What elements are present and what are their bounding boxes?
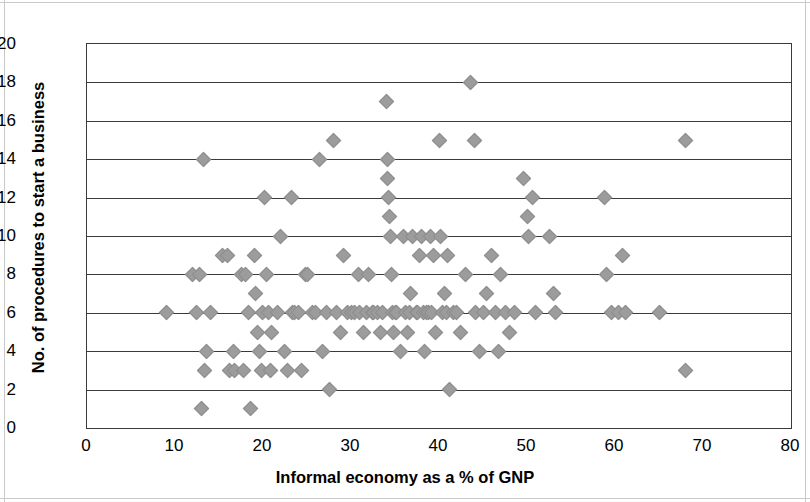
data-point bbox=[521, 228, 537, 244]
x-tick-label: 50 bbox=[496, 437, 556, 454]
data-point bbox=[336, 247, 352, 263]
y-tick-label: 14 bbox=[0, 150, 16, 167]
data-point bbox=[380, 171, 396, 187]
data-point bbox=[547, 305, 563, 321]
data-point bbox=[294, 363, 310, 379]
y-tick-label: 16 bbox=[0, 112, 16, 129]
data-point bbox=[484, 247, 500, 263]
data-point bbox=[202, 305, 218, 321]
data-point bbox=[379, 151, 395, 167]
x-tick-label: 40 bbox=[408, 437, 468, 454]
data-point bbox=[243, 401, 259, 417]
data-point bbox=[472, 343, 488, 359]
data-point bbox=[273, 228, 289, 244]
data-point bbox=[196, 363, 212, 379]
y-tick-label: 12 bbox=[0, 189, 16, 206]
x-tick-label: 20 bbox=[232, 437, 292, 454]
data-point bbox=[259, 267, 275, 283]
data-point bbox=[502, 324, 518, 340]
data-point bbox=[158, 305, 174, 321]
y-tick-label: 4 bbox=[0, 342, 16, 359]
data-point bbox=[528, 305, 544, 321]
data-point bbox=[322, 382, 338, 398]
data-point bbox=[276, 343, 292, 359]
data-point bbox=[264, 324, 280, 340]
y-tick-label: 10 bbox=[0, 227, 16, 244]
gridline bbox=[87, 82, 791, 83]
x-tick-label: 70 bbox=[672, 437, 732, 454]
data-point bbox=[403, 286, 419, 302]
data-point bbox=[188, 305, 204, 321]
figure-border-right bbox=[805, 0, 806, 502]
x-tick-label: 0 bbox=[56, 437, 116, 454]
data-point bbox=[597, 190, 613, 206]
data-point bbox=[400, 324, 416, 340]
data-point bbox=[252, 343, 268, 359]
figure-border-bottom bbox=[0, 498, 810, 499]
data-point bbox=[428, 324, 444, 340]
data-point bbox=[361, 267, 377, 283]
data-point bbox=[519, 209, 535, 225]
data-point bbox=[678, 363, 694, 379]
data-point bbox=[236, 363, 252, 379]
data-point bbox=[479, 286, 495, 302]
data-point bbox=[491, 343, 507, 359]
data-point bbox=[382, 209, 398, 225]
x-axis-title: Informal economy as a % of GNP bbox=[0, 468, 810, 487]
data-point bbox=[195, 151, 211, 167]
figure-border-top bbox=[0, 2, 810, 3]
x-tick-label: 80 bbox=[760, 437, 810, 454]
data-point bbox=[248, 286, 264, 302]
data-point bbox=[516, 171, 532, 187]
data-point bbox=[493, 267, 509, 283]
data-point bbox=[507, 305, 523, 321]
data-point bbox=[315, 343, 331, 359]
y-tick-label: 0 bbox=[0, 419, 16, 436]
data-point bbox=[283, 190, 299, 206]
data-point bbox=[326, 132, 342, 148]
data-point bbox=[433, 228, 449, 244]
gridline bbox=[87, 390, 791, 391]
data-point bbox=[614, 247, 630, 263]
data-point bbox=[524, 190, 540, 206]
data-point bbox=[333, 324, 349, 340]
data-point bbox=[246, 247, 262, 263]
x-tick-label: 10 bbox=[144, 437, 204, 454]
data-point bbox=[199, 343, 215, 359]
gridline bbox=[87, 198, 791, 199]
data-point bbox=[466, 132, 482, 148]
data-point bbox=[546, 286, 562, 302]
data-point bbox=[463, 75, 479, 91]
data-point bbox=[225, 343, 241, 359]
data-point bbox=[381, 190, 397, 206]
y-tick-label: 2 bbox=[0, 381, 16, 398]
data-point bbox=[431, 132, 447, 148]
data-point bbox=[356, 324, 372, 340]
data-point bbox=[384, 267, 400, 283]
data-point bbox=[442, 382, 458, 398]
data-point bbox=[257, 190, 273, 206]
data-point bbox=[598, 267, 614, 283]
data-point bbox=[194, 401, 210, 417]
data-point bbox=[378, 94, 394, 110]
data-point bbox=[678, 132, 694, 148]
gridline bbox=[87, 159, 791, 160]
data-point bbox=[542, 228, 558, 244]
data-point bbox=[440, 247, 456, 263]
y-axis-title: No. of procedures to start a business bbox=[29, 28, 48, 428]
data-point bbox=[392, 343, 408, 359]
data-point bbox=[651, 305, 667, 321]
y-tick-label: 8 bbox=[0, 265, 16, 282]
data-point bbox=[436, 286, 452, 302]
x-tick-label: 30 bbox=[320, 437, 380, 454]
y-tick-label: 20 bbox=[0, 35, 16, 52]
data-point bbox=[312, 151, 328, 167]
x-tick-label: 60 bbox=[584, 437, 644, 454]
data-point bbox=[458, 267, 474, 283]
data-point bbox=[417, 343, 433, 359]
gridline bbox=[87, 351, 791, 352]
gridline bbox=[87, 121, 791, 122]
data-point bbox=[452, 324, 468, 340]
y-tick-label: 18 bbox=[0, 73, 16, 90]
y-tick-label: 6 bbox=[0, 304, 16, 321]
